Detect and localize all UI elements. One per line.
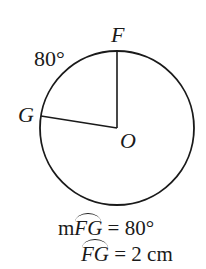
arc-measure-equation: mFG = 80° (58, 218, 154, 239)
label-f: F (111, 24, 124, 46)
length-value: = 2 cm (109, 242, 173, 266)
measure-prefix: m (58, 216, 74, 240)
arc-fg: FG (81, 244, 109, 265)
label-o: O (120, 130, 136, 152)
measure-value: = 80° (102, 216, 154, 240)
arc-fg: FG (74, 218, 102, 239)
radius-og (41, 116, 117, 128)
label-g: G (18, 104, 34, 126)
label-80-degrees: 80° (34, 48, 65, 70)
arc-length-equation: FG = 2 cm (81, 244, 173, 265)
